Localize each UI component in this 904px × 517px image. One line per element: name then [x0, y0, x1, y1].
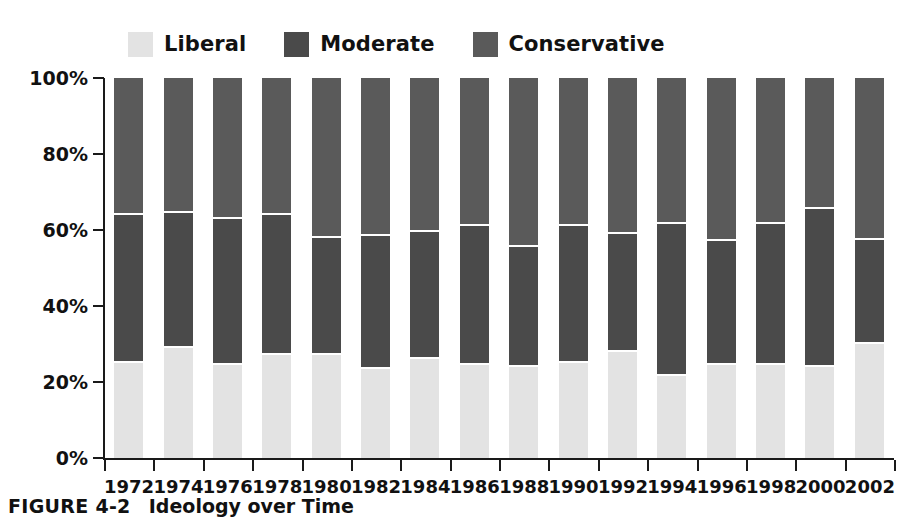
bar-segment-moderate[interactable] [114, 215, 143, 363]
bar-segment-conservative[interactable] [707, 78, 736, 241]
bar-group[interactable] [647, 78, 696, 458]
bar-group[interactable] [400, 78, 449, 458]
stacked-bar[interactable] [114, 78, 143, 458]
bar-segment-conservative[interactable] [213, 78, 242, 219]
bar-segment-liberal[interactable] [410, 359, 439, 458]
figure-caption: FIGURE 4-2 Ideology over Time [8, 495, 354, 517]
x-axis-tick-label: 1990 [549, 476, 598, 502]
x-axis-tick-label: 1992 [598, 476, 647, 502]
bar-segment-conservative[interactable] [559, 78, 588, 226]
bar-segment-liberal[interactable] [855, 344, 884, 458]
x-axis-tick [252, 460, 254, 471]
stacked-bar[interactable] [262, 78, 291, 458]
bar-segment-conservative[interactable] [756, 78, 785, 224]
bar-segment-liberal[interactable] [312, 355, 341, 458]
bar-segment-liberal[interactable] [805, 367, 834, 458]
bar-group[interactable] [203, 78, 252, 458]
bar-group[interactable] [795, 78, 844, 458]
stacked-bar[interactable] [460, 78, 489, 458]
bar-group[interactable] [598, 78, 647, 458]
stacked-bar[interactable] [509, 78, 538, 458]
bar-segment-moderate[interactable] [262, 215, 291, 356]
bar-segment-moderate[interactable] [707, 241, 736, 365]
x-axis-tick [302, 460, 304, 471]
bar-segment-moderate[interactable] [361, 236, 390, 369]
bar-segment-liberal[interactable] [213, 365, 242, 458]
x-axis-tick [697, 460, 699, 471]
bar-segment-moderate[interactable] [657, 224, 686, 376]
x-axis-tick [203, 460, 205, 471]
y-axis-labels: 0%20%40%60%80%100% [0, 0, 88, 514]
stacked-bar[interactable] [164, 78, 193, 458]
x-axis-tick-label: 1994 [647, 476, 696, 502]
figure-caption-title: Ideology over Time [149, 495, 354, 517]
bar-segment-liberal[interactable] [608, 352, 637, 458]
stacked-bar[interactable] [608, 78, 637, 458]
bar-group[interactable] [104, 78, 153, 458]
bar-group[interactable] [697, 78, 746, 458]
stacked-bar[interactable] [312, 78, 341, 458]
bar-group[interactable] [252, 78, 301, 458]
bar-segment-moderate[interactable] [312, 238, 341, 356]
bar-segment-liberal[interactable] [114, 363, 143, 458]
bar-segment-conservative[interactable] [805, 78, 834, 209]
bar-segment-conservative[interactable] [855, 78, 884, 240]
bar-segment-liberal[interactable] [657, 376, 686, 458]
bar-segment-liberal[interactable] [707, 365, 736, 458]
bar-segment-moderate[interactable] [410, 232, 439, 359]
stacked-bar[interactable] [213, 78, 242, 458]
stacked-bar[interactable] [756, 78, 785, 458]
stacked-bar[interactable] [559, 78, 588, 458]
bar-segment-conservative[interactable] [509, 78, 538, 247]
stacked-bar[interactable] [657, 78, 686, 458]
bar-group[interactable] [450, 78, 499, 458]
bar-segment-moderate[interactable] [805, 209, 834, 367]
bar-segment-moderate[interactable] [756, 224, 785, 365]
legend-item-conservative: Conservative [473, 32, 665, 57]
bar-segment-moderate[interactable] [509, 247, 538, 367]
x-axis-tick-label: 1982 [351, 476, 400, 502]
bar-group[interactable] [548, 78, 597, 458]
bar-segment-conservative[interactable] [460, 78, 489, 226]
x-axis-tick [450, 460, 452, 471]
bar-segment-conservative[interactable] [657, 78, 686, 224]
bar-segment-liberal[interactable] [262, 355, 291, 458]
stacked-bar[interactable] [707, 78, 736, 458]
bar-group[interactable] [351, 78, 400, 458]
bar-group[interactable] [153, 78, 202, 458]
bar-segment-conservative[interactable] [114, 78, 143, 215]
bar-group[interactable] [302, 78, 351, 458]
plot-area [104, 78, 894, 458]
stacked-bar[interactable] [410, 78, 439, 458]
bar-segment-liberal[interactable] [756, 365, 785, 458]
legend-swatch-liberal [128, 32, 153, 57]
bar-segment-conservative[interactable] [410, 78, 439, 232]
bar-segment-liberal[interactable] [164, 348, 193, 458]
bar-segment-conservative[interactable] [262, 78, 291, 215]
bar-segment-liberal[interactable] [509, 367, 538, 458]
x-axis-tick [499, 460, 501, 471]
bar-segment-moderate[interactable] [164, 213, 193, 348]
bar-segment-conservative[interactable] [608, 78, 637, 234]
y-axis-tick-label: 20% [0, 371, 88, 393]
bar-group[interactable] [499, 78, 548, 458]
bar-segment-moderate[interactable] [559, 226, 588, 363]
bar-segment-moderate[interactable] [855, 240, 884, 345]
bar-segment-liberal[interactable] [559, 363, 588, 458]
x-axis-tick [104, 460, 106, 471]
bar-segment-moderate[interactable] [213, 219, 242, 365]
bar-group[interactable] [746, 78, 795, 458]
bar-segment-liberal[interactable] [361, 369, 390, 458]
bar-segment-moderate[interactable] [460, 226, 489, 365]
bar-segment-liberal[interactable] [460, 365, 489, 458]
bar-segment-conservative[interactable] [312, 78, 341, 238]
bar-segment-conservative[interactable] [361, 78, 390, 236]
stacked-bar[interactable] [805, 78, 834, 458]
bar-segment-conservative[interactable] [164, 78, 193, 213]
x-axis-tick [548, 460, 550, 471]
stacked-bar[interactable] [855, 78, 884, 458]
bar-group[interactable] [845, 78, 894, 458]
legend-label-moderate: Moderate [320, 32, 434, 56]
stacked-bar[interactable] [361, 78, 390, 458]
bar-segment-moderate[interactable] [608, 234, 637, 352]
